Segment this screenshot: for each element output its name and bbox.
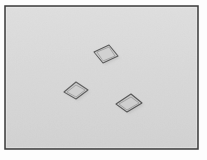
surface-grain <box>5 6 198 149</box>
scene-image <box>0 0 207 160</box>
surface-group <box>5 6 198 149</box>
scene-canvas <box>0 0 207 160</box>
